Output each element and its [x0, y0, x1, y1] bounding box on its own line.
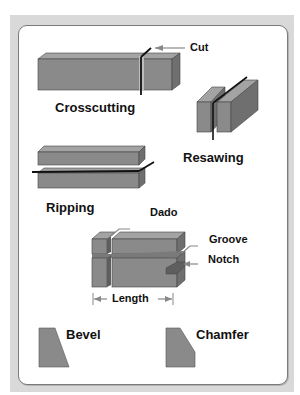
length-label: Length [112, 293, 149, 304]
rip-board-illustration [32, 146, 154, 188]
woodworking-cuts-diagram [0, 0, 300, 395]
crosscutting-label: Crosscutting [55, 101, 135, 114]
chamfer-profile-illustration [166, 328, 195, 367]
dado-label: Dado [150, 207, 178, 218]
ripping-label: Ripping [46, 201, 94, 214]
resawing-label: Resawing [183, 151, 244, 164]
crosscut-board-illustration [38, 45, 185, 95]
resaw-board-illustration [197, 77, 258, 140]
cut-label: Cut [190, 42, 208, 53]
chamfer-label: Chamfer [196, 328, 249, 341]
bevel-profile-illustration [39, 328, 69, 367]
notch-label: Notch [208, 254, 239, 265]
groove-label: Groove [209, 234, 248, 245]
bevel-label: Bevel [66, 328, 101, 341]
